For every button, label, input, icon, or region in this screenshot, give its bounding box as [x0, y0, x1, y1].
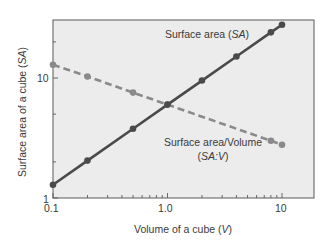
x-tick-label: 10	[275, 202, 287, 214]
legend-label-surface-area: Surface area (SA)	[165, 28, 249, 40]
data-point-marker	[199, 77, 206, 84]
chart-svg: 0.1 1.0 10 1 10 Volume of a cube (V) Sur…	[0, 0, 335, 240]
data-point-marker	[268, 137, 275, 144]
y-axis-label: Surface area of a cube (SA)	[16, 47, 28, 177]
data-point-marker	[268, 29, 275, 36]
data-point-marker	[50, 181, 57, 188]
x-tick-label: 1.0	[158, 202, 173, 214]
data-point-marker	[84, 73, 91, 80]
data-point-marker	[130, 125, 137, 132]
data-point-marker	[84, 157, 91, 164]
data-point-marker	[279, 21, 286, 28]
data-point-marker	[130, 89, 137, 96]
data-point-marker	[233, 53, 240, 60]
y-tick-label: 1	[43, 193, 49, 205]
legend-label-sa-to-volume-line1: Surface area/Volume	[164, 136, 262, 148]
x-axis-label: Volume of a cube (V)	[134, 223, 232, 235]
chart-container: 0.1 1.0 10 1 10 Volume of a cube (V) Sur…	[0, 0, 335, 240]
legend-label-sa-to-volume-line2: (SA:V)	[198, 150, 229, 162]
data-point-marker	[164, 101, 171, 108]
data-point-marker	[50, 61, 57, 68]
y-tick-label: 10	[37, 72, 49, 84]
data-point-marker	[279, 141, 286, 148]
